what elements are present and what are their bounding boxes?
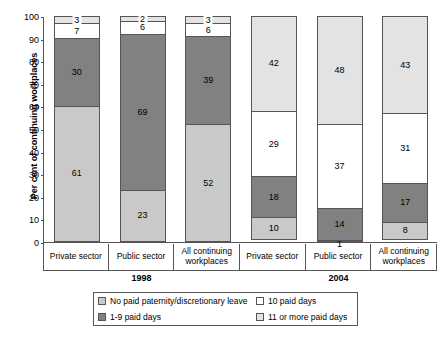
bar-2004-public-sector: 4837141 — [317, 16, 363, 242]
bar-segment-label: 69 — [137, 108, 147, 117]
plot-area: 0102030405060708090100 37306126692336395… — [43, 17, 437, 243]
bar-segment: 6 — [185, 23, 231, 37]
bar-1998-public-sector: 266923 — [120, 16, 166, 242]
category-label: Private sector — [240, 244, 306, 271]
bar-2004-private-sector: 42291810 — [251, 16, 297, 242]
group-axis: 19982004 — [43, 271, 437, 285]
group-label-1998: 1998 — [43, 273, 240, 283]
bar-segment-label: 52 — [203, 179, 213, 188]
category-label: All continuing workplaces — [174, 244, 240, 271]
bar-segment: 42 — [251, 16, 297, 111]
y-axis-tick: 40 — [4, 148, 44, 158]
bar-segment: 1 — [317, 240, 363, 242]
y-axis-tick: 10 — [4, 215, 44, 225]
y-axis-tick: 60 — [4, 102, 44, 112]
bar-2004-all-continuing-workplaces: 4331178 — [382, 16, 428, 242]
y-axis-tick: 80 — [4, 57, 44, 67]
bar-1998-private-sector: 373061 — [54, 16, 100, 242]
category-axis: Private sectorPublic sectorAll continuin… — [43, 244, 437, 271]
bar-segment-label: 14 — [334, 220, 344, 229]
y-axis-tick: 0 — [4, 238, 44, 248]
bar-segment: 61 — [54, 106, 100, 243]
bar-segment-label: 18 — [269, 193, 279, 202]
legend-item: 1-9 paid days — [98, 312, 256, 322]
legend-label: No paid paternity/discretionary leave — [110, 296, 248, 306]
y-axis-tick: 70 — [4, 80, 44, 90]
bar-segment-label: 42 — [269, 59, 279, 68]
bar-segment-label: 30 — [72, 68, 82, 77]
bar-segment: 43 — [382, 16, 428, 113]
bar-segment-label: 61 — [72, 169, 82, 178]
legend-swatch-icon — [98, 313, 106, 321]
bar-segment: 7 — [54, 23, 100, 39]
category-label: Public sector — [109, 244, 175, 271]
y-axis-tick: 30 — [4, 170, 44, 180]
bar-segment: 17 — [382, 183, 428, 221]
bar-segment-label: 6 — [206, 26, 211, 35]
category-label: All continuing workplaces — [371, 244, 437, 271]
y-axis-tick: 50 — [4, 125, 44, 135]
bar-segment: 69 — [120, 34, 166, 190]
bar-segment: 29 — [251, 111, 297, 177]
bar-segment: 37 — [317, 124, 363, 208]
bar-segment-label: 2 — [138, 14, 147, 23]
legend-item: 10 paid days — [256, 296, 353, 306]
bar-segment: 30 — [54, 38, 100, 105]
bar-segment: 8 — [382, 222, 428, 240]
y-axis-tick: 90 — [4, 35, 44, 45]
bar-segment-label: 3 — [72, 15, 81, 24]
chart-legend: No paid paternity/discretionary leave10 … — [93, 292, 358, 326]
y-axis-tick: 100 — [4, 12, 44, 22]
legend-label: 11 or more paid days — [268, 312, 347, 322]
legend-label: 1-9 paid days — [110, 312, 161, 322]
legend-swatch-icon — [256, 297, 264, 305]
bar-segment-label: 17 — [400, 198, 410, 207]
bar-segment: 23 — [120, 190, 166, 242]
group-label-2004: 2004 — [240, 273, 437, 283]
bar-segment: 14 — [317, 208, 363, 240]
y-axis-tick: 20 — [4, 193, 44, 203]
legend-swatch-icon — [98, 297, 106, 305]
bar-1998-all-continuing-workplaces: 363952 — [185, 16, 231, 242]
legend-item: No paid paternity/discretionary leave — [98, 296, 256, 306]
bar-segment-label: 8 — [403, 226, 408, 235]
legend-item: 11 or more paid days — [256, 312, 353, 322]
bar-segment: 3 — [185, 16, 231, 23]
bar-segment: 10 — [251, 217, 297, 240]
bar-segment-label: 3 — [204, 15, 213, 24]
legend-label: 10 paid days — [268, 296, 316, 306]
bar-segment-label: 7 — [74, 27, 79, 36]
bar-segment-label: 29 — [269, 140, 279, 149]
bar-segment-label: 1 — [337, 240, 342, 249]
bar-segment-label: 43 — [400, 61, 410, 70]
stacked-bar-chart: Per cent of continuing workplaces 010203… — [0, 0, 443, 340]
bar-segment-label: 48 — [334, 66, 344, 75]
bar-segment: 52 — [185, 124, 231, 242]
category-label: Private sector — [43, 244, 109, 271]
bar-segment: 48 — [317, 16, 363, 124]
bar-segment: 31 — [382, 113, 428, 183]
bar-segment: 39 — [185, 36, 231, 124]
bar-segment-label: 37 — [334, 162, 344, 171]
bar-segment-label: 39 — [203, 76, 213, 85]
bar-segment: 18 — [251, 176, 297, 217]
legend-swatch-icon — [256, 313, 264, 321]
bar-segment-label: 23 — [137, 211, 147, 220]
bar-segment-label: 31 — [400, 144, 410, 153]
bar-segment-label: 10 — [269, 224, 279, 233]
bar-segment: 3 — [54, 16, 100, 23]
bar-segment-label: 6 — [140, 23, 145, 32]
